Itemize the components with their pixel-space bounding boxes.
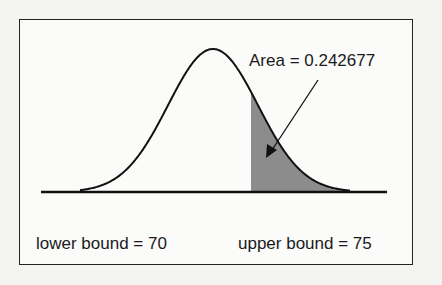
upper-bound-label: upper bound = 75: [238, 234, 372, 254]
arrow-shaft: [272, 80, 318, 150]
lower-bound-label: lower bound = 70: [36, 234, 167, 254]
area-label: Area = 0.242677: [249, 51, 375, 71]
